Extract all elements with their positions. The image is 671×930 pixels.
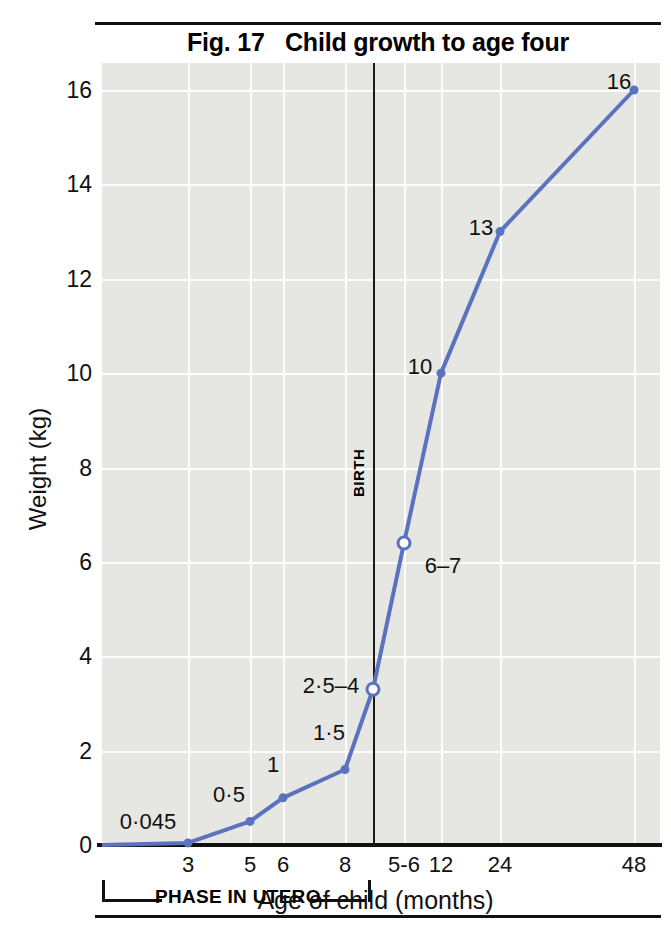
data-point-label: 1 — [267, 752, 279, 778]
data-point-label: 13 — [469, 215, 493, 241]
gridline-vertical — [188, 63, 190, 845]
x-axis-tick-label: 5-6 — [388, 852, 420, 878]
birth-label: BIRTH — [350, 449, 367, 497]
data-point-label: 0·5 — [213, 782, 245, 808]
x-axis-title-text: Age of child (months) — [257, 886, 493, 914]
gridline-vertical — [441, 63, 443, 845]
gridline-horizontal — [102, 656, 660, 658]
y-axis-tick-label: 4 — [79, 643, 92, 670]
figure-container: Fig. 17 Child growth to age four 0246810… — [0, 0, 671, 930]
figure-title: Fig. 17 Child growth to age four — [95, 28, 661, 57]
y-axis-tick-label: 8 — [79, 454, 92, 481]
plot-area — [102, 63, 660, 845]
x-axis-tick-label: 5 — [244, 852, 256, 878]
top-rule — [95, 22, 661, 25]
x-axis-tick-label: 3 — [182, 852, 194, 878]
x-axis-tick-label: 48 — [622, 852, 646, 878]
data-point-label: 16 — [607, 69, 631, 95]
gridline-horizontal — [102, 562, 660, 564]
gridline-horizontal — [102, 751, 660, 753]
y-axis-tick-label: 2 — [79, 737, 92, 764]
x-axis-tick-label: 24 — [488, 852, 512, 878]
data-point-label: 0·045 — [120, 809, 176, 835]
data-point-label: 1·5 — [313, 720, 345, 746]
gridline-vertical — [283, 63, 285, 845]
gridline-vertical — [404, 63, 406, 845]
gridline-vertical — [634, 63, 636, 845]
gridline-vertical — [345, 63, 347, 845]
x-axis-tick-label: 6 — [277, 852, 289, 878]
x-axis-tick-label: 12 — [429, 852, 453, 878]
y-axis-tick-label: 0 — [79, 832, 92, 859]
gridline-vertical — [500, 63, 502, 845]
data-point-label: 6–7 — [425, 553, 462, 579]
gridline-horizontal — [102, 468, 660, 470]
gridline-horizontal — [102, 90, 660, 92]
gridline-horizontal — [102, 373, 660, 375]
gridline-vertical — [250, 63, 252, 845]
data-point-label: 2·5–4 — [303, 673, 359, 699]
gridline-horizontal — [102, 184, 660, 186]
y-axis-tick-label: 10 — [66, 360, 92, 387]
y-axis-title: Weight (kg) — [24, 369, 52, 569]
x-axis-title: Age of child (months) — [0, 886, 671, 915]
y-axis-tick-label: 16 — [66, 77, 92, 104]
y-axis-tick-label: 6 — [79, 548, 92, 575]
birth-reference-line — [373, 63, 375, 845]
data-point-label: 10 — [408, 354, 432, 380]
gridline-horizontal — [102, 279, 660, 281]
x-axis-tick-label: 8 — [339, 852, 351, 878]
bottom-rule — [95, 915, 661, 918]
y-axis-tick-label: 14 — [66, 171, 92, 198]
x-axis-line — [97, 843, 662, 847]
y-axis-tick-label: 12 — [66, 265, 92, 292]
